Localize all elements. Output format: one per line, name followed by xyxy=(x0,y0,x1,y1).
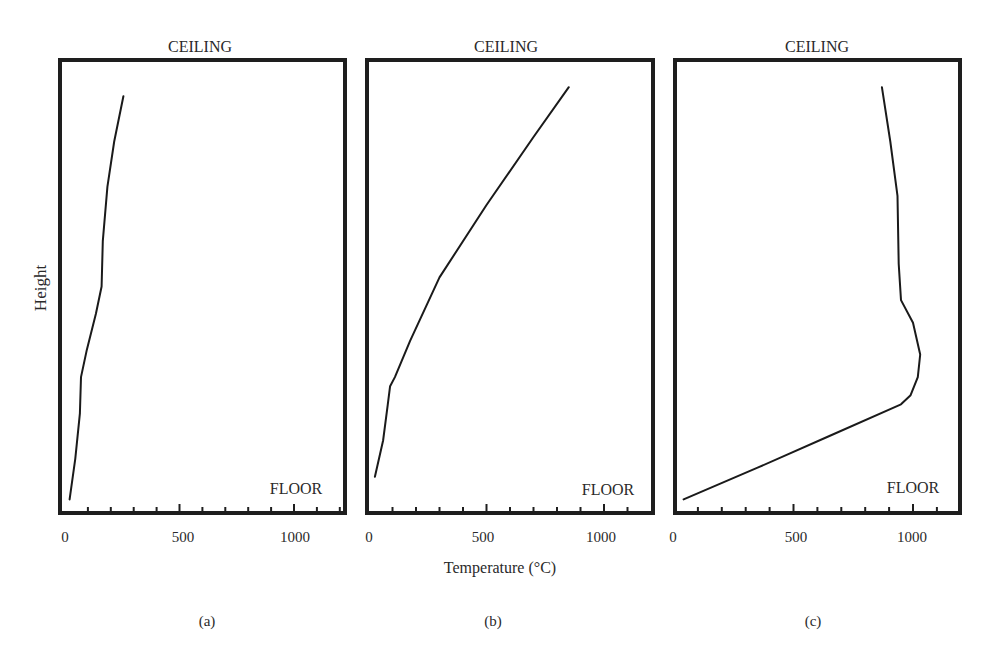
panel-a-frame xyxy=(60,60,345,513)
panel-c-ceiling-label: CEILING xyxy=(785,38,849,55)
panel-c-tick-label-1000: 1000 xyxy=(897,529,927,545)
panel-a-caption: (a) xyxy=(199,613,216,630)
panel-c-frame xyxy=(675,60,960,513)
panel-a-ceiling-label: CEILING xyxy=(168,38,232,55)
panel-a-temperature-curve xyxy=(70,96,124,499)
panel-b-tick-label-0: 0 xyxy=(365,529,373,545)
panel-b-tick-label-500: 500 xyxy=(472,529,495,545)
panel-b-ceiling-label: CEILING xyxy=(474,38,538,55)
panel-c-floor-label: FLOOR xyxy=(887,479,940,496)
panel-a-tick-label-1000: 1000 xyxy=(280,529,310,545)
panel-b-floor-label: FLOOR xyxy=(582,481,635,498)
panel-c-tick-label-500: 500 xyxy=(785,529,808,545)
x-axis-label: Temperature (°C) xyxy=(444,559,556,577)
y-axis-label: Height xyxy=(31,265,50,312)
panel-a-floor-label: FLOOR xyxy=(270,480,323,497)
panel-b: CEILING FLOOR 0 500 1000 (b) xyxy=(365,38,653,630)
panel-c-temperature-curve xyxy=(684,87,921,499)
panel-a-tick-label-0: 0 xyxy=(61,529,69,545)
panel-c-tick-label-0: 0 xyxy=(669,529,677,545)
panel-b-caption: (b) xyxy=(484,613,502,630)
panel-c-caption: (c) xyxy=(805,613,822,630)
panel-a-tick-label-500: 500 xyxy=(172,529,195,545)
temperature-profile-figure: Height Temperature (°C) CEILING FLOOR 0 … xyxy=(0,0,995,663)
panel-b-frame xyxy=(367,60,653,513)
panel-a: CEILING FLOOR 0 500 1000 (a) xyxy=(60,38,345,630)
panel-c: CEILING FLOOR 0 500 1000 (c) xyxy=(669,38,960,630)
panel-b-tick-label-1000: 1000 xyxy=(586,529,616,545)
panel-b-temperature-curve xyxy=(375,87,569,477)
